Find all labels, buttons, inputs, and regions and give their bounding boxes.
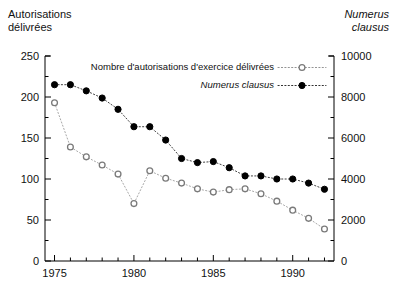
data-point-autorisations [210,189,216,195]
data-point-numerus-clausus [147,124,153,130]
data-point-numerus-clausus [67,82,73,88]
data-point-numerus-clausus [194,160,200,166]
legend-marker-autorisations-marker [299,65,305,71]
data-point-autorisations [99,162,105,168]
data-point-numerus-clausus [321,186,327,192]
data-point-autorisations [163,175,169,181]
data-point-numerus-clausus [99,95,105,101]
data-point-autorisations [195,186,201,192]
left-tick-label: 200 [21,91,39,103]
right-tick-label: 2000 [341,214,365,226]
left-tick-label: 250 [21,50,39,62]
data-point-autorisations [258,191,264,197]
legend-marker-numerus-clausus-marker [299,82,305,88]
data-point-autorisations [274,198,280,204]
data-point-autorisations [226,187,232,193]
data-point-numerus-clausus [305,180,311,186]
data-point-numerus-clausus [258,173,264,179]
right-tick-label: 10000 [341,50,372,62]
right-tick-label: 4000 [341,173,365,185]
data-point-numerus-clausus [290,176,296,182]
right-tick-label: 0 [341,255,347,267]
left-tick-label: 50 [27,214,39,226]
data-point-numerus-clausus [51,82,57,88]
data-point-autorisations [242,186,248,192]
data-point-numerus-clausus [131,124,137,130]
data-point-numerus-clausus [178,155,184,161]
data-point-autorisations [179,180,185,186]
x-tick-label: 1975 [42,267,66,279]
data-point-numerus-clausus [226,165,232,171]
data-point-autorisations [322,226,328,232]
data-point-autorisations [68,144,74,150]
data-point-autorisations [131,201,137,207]
data-point-autorisations [52,100,58,106]
plot-area: 0501001502002500200040006000800010000197… [0,0,395,301]
right-tick-label: 6000 [341,132,365,144]
data-point-autorisations [147,168,153,174]
data-point-numerus-clausus [210,158,216,164]
right-tick-label: 8000 [341,91,365,103]
data-point-autorisations [83,154,89,160]
series-line-2 [55,85,325,190]
left-tick-label: 0 [33,255,39,267]
series-line-1 [55,103,325,229]
x-tick-label: 1985 [201,267,225,279]
data-point-numerus-clausus [242,173,248,179]
data-point-autorisations [290,207,296,213]
left-tick-label: 150 [21,132,39,144]
x-tick-label: 1980 [122,267,146,279]
data-point-numerus-clausus [83,88,89,94]
data-point-autorisations [306,215,312,221]
left-tick-label: 100 [21,173,39,185]
data-point-numerus-clausus [115,106,121,112]
chart-figure: Autorisations délivrées Numerus clausus … [0,0,395,301]
data-point-numerus-clausus [163,137,169,143]
x-tick-label: 1990 [280,267,304,279]
data-point-numerus-clausus [274,176,280,182]
data-point-autorisations [115,171,121,177]
